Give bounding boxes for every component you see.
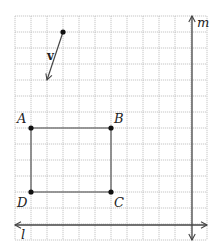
point-a <box>28 125 33 130</box>
label-b: B <box>113 111 124 126</box>
label-l: l <box>21 227 25 242</box>
vector-tail-point <box>60 29 65 34</box>
label-m: m <box>197 15 209 30</box>
geometry-figure: A B C D v l m <box>0 0 218 252</box>
label-a: A <box>16 111 26 126</box>
point-b <box>108 125 113 130</box>
point-d <box>28 189 33 194</box>
label-c: C <box>114 195 124 210</box>
label-v: v <box>46 49 55 63</box>
label-d: D <box>16 195 28 210</box>
point-c <box>108 189 113 194</box>
